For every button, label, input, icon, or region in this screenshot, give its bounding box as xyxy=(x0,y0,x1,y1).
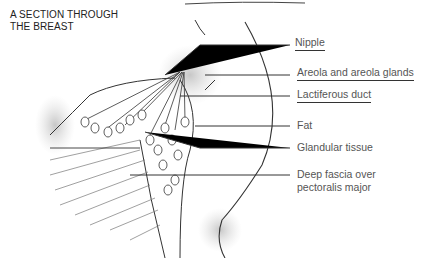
label-deep-fascia-line1: Deep fascia over xyxy=(297,168,376,181)
label-lactiferous-duct: Lactiferous duct xyxy=(297,88,371,103)
breast-section-illustration xyxy=(0,0,437,258)
label-glandular-tissue: Glandular tissue xyxy=(297,141,373,154)
label-fat: Fat xyxy=(297,119,312,132)
label-nipple: Nipple xyxy=(295,36,325,51)
label-deep-fascia-line2: pectoralis major xyxy=(297,181,376,194)
label-areola: Areola and areola glands xyxy=(297,66,414,81)
label-deep-fascia: Deep fascia over pectoralis major xyxy=(297,168,376,194)
